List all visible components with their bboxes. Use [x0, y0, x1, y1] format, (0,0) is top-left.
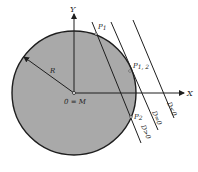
d-greater-label: D>0	[139, 123, 153, 141]
x-axis-label: X	[186, 89, 193, 98]
p1-label: P1	[97, 23, 107, 31]
origin-point	[73, 92, 76, 95]
p2-label: P2	[133, 113, 143, 121]
point-p1	[95, 33, 97, 35]
p12-label: P1, 2	[132, 62, 149, 70]
y-axis-label: Y	[70, 5, 76, 14]
d-less-label: D<0	[165, 100, 179, 118]
radius-label: R	[49, 67, 56, 75]
circle-line-intersection-diagram: Y X R 0 = M P1 P1, 2 P2 D<0 D=0 D>0	[0, 0, 198, 172]
d-equal-label: D=0	[150, 109, 164, 127]
point-p12	[129, 70, 131, 72]
point-p2	[130, 116, 132, 118]
origin-label: 0 = M	[64, 98, 87, 106]
